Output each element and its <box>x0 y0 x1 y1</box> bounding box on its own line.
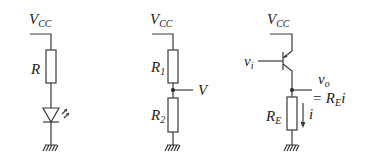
current-arrow-icon <box>301 103 306 128</box>
transistor-icon <box>283 51 292 90</box>
supply-wire <box>270 34 292 51</box>
vcc-label: VCC <box>29 11 52 29</box>
vcc-label: VCC <box>150 11 173 29</box>
resistor-label: R <box>30 61 40 77</box>
led-icon <box>43 108 69 122</box>
ground-icon <box>165 145 180 151</box>
output-label: vo <box>318 71 330 89</box>
resistor-r1 <box>168 50 178 83</box>
resistor-re <box>287 97 297 130</box>
resistor-r2 <box>168 98 178 132</box>
re-label: RE <box>265 108 281 126</box>
circuit-diagram: VCC R VCC R1 V R2 VCC <box>0 0 369 165</box>
output-equation: = REi <box>312 90 345 108</box>
output-label: V <box>198 82 209 98</box>
supply-wire <box>30 34 51 50</box>
input-label: vi <box>244 53 254 71</box>
current-label: i <box>309 106 313 122</box>
supply-wire <box>152 34 173 50</box>
r2-label: R2 <box>150 107 165 125</box>
ground-icon <box>284 145 299 151</box>
emitter-follower-circuit: VCC vi vo = REi RE i <box>244 11 345 151</box>
vcc-label: VCC <box>267 11 290 29</box>
led-circuit: VCC R <box>29 11 69 151</box>
ground-icon <box>43 145 58 151</box>
r1-label: R1 <box>150 59 165 77</box>
voltage-divider-circuit: VCC R1 V R2 <box>150 11 209 151</box>
resistor <box>46 50 56 83</box>
